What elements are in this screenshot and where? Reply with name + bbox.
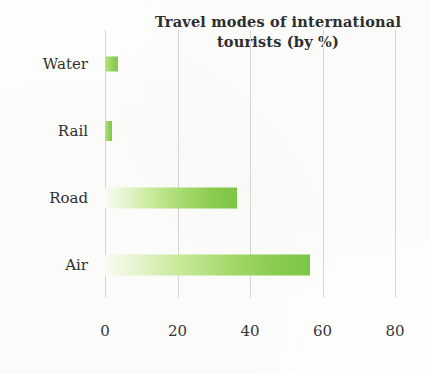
- bar-fill: [105, 121, 112, 141]
- bar-fill: [105, 254, 310, 275]
- bar-chart-figure: Travel modes of international tourists (…: [0, 0, 430, 374]
- bar-rail[interactable]: [105, 121, 112, 141]
- bar-fill: [105, 56, 118, 71]
- y-axis-label-water: Water: [8, 55, 88, 73]
- y-axis-label-road: Road: [8, 189, 88, 207]
- bar-water[interactable]: [105, 56, 118, 71]
- plot-area: [105, 30, 427, 298]
- bar-row: [105, 30, 427, 97]
- bar-row: [105, 97, 427, 164]
- bar-fill: [105, 187, 237, 208]
- x-tick-label-20: 20: [158, 322, 198, 340]
- x-tick-label-60: 60: [303, 322, 343, 340]
- x-tick-label-0: 0: [85, 322, 125, 340]
- bar-row: [105, 164, 427, 231]
- x-tick-label-40: 40: [230, 322, 270, 340]
- chart-title-line-1: Travel modes of international: [132, 12, 424, 32]
- y-axis-label-rail: Rail: [8, 122, 88, 140]
- x-tick-label-80: 80: [375, 322, 415, 340]
- bar-air[interactable]: [105, 254, 310, 275]
- bar-row: [105, 231, 427, 298]
- bar-road[interactable]: [105, 187, 237, 208]
- y-axis-label-air: Air: [8, 256, 88, 274]
